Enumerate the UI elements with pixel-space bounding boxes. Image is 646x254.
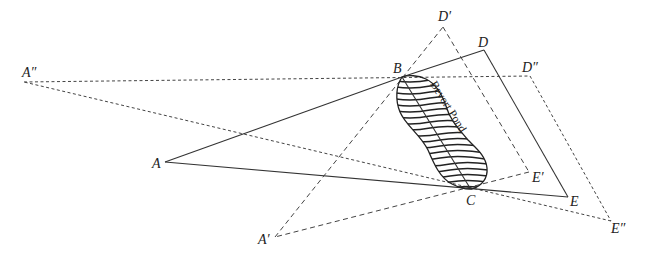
original-figure [165, 50, 568, 197]
primed-figure [275, 27, 529, 237]
label-d-prime: D′ [437, 9, 452, 24]
label-e-double-prime: E″ [610, 221, 626, 236]
double-primed-figure [24, 76, 611, 221]
line-a-b [165, 77, 402, 162]
label-a: A [151, 156, 161, 171]
label-e: E [569, 194, 579, 209]
label-a-prime: A′ [257, 232, 271, 247]
pond-survey-diagram: Bevort Pond A A′ A″ B C D D′ D″ E E′ E″ [0, 0, 646, 254]
label-e-prime: E′ [531, 170, 545, 185]
label-b: B [393, 61, 402, 76]
point-labels: A A′ A″ B C D D′ D″ E E′ E″ [21, 9, 626, 247]
label-d-double-prime: D″ [521, 60, 538, 75]
label-d: D [477, 35, 488, 50]
line-a2-d2 [24, 76, 530, 82]
label-c: C [466, 193, 476, 208]
line-a1-d1 [275, 27, 443, 237]
line-e1-a1 [275, 172, 529, 237]
line-e-a [165, 162, 568, 197]
line-e2-a2 [24, 82, 611, 221]
label-a-double-prime: A″ [21, 65, 37, 80]
